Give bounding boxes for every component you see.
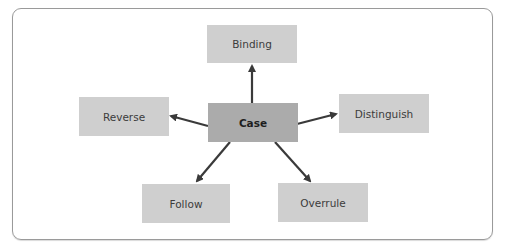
node-reverse: Reverse (79, 97, 169, 136)
arrow-to-follow (197, 142, 230, 181)
arrow-to-distinguish (297, 114, 336, 124)
node-follow: Follow (142, 184, 230, 223)
arrow-to-overrule (275, 142, 310, 181)
node-case: Case (208, 103, 298, 142)
node-label: Follow (170, 198, 203, 210)
node-binding: Binding (207, 25, 297, 63)
node-label: Overrule (300, 197, 345, 209)
node-label: Distinguish (355, 108, 414, 120)
node-overrule: Overrule (278, 183, 368, 222)
node-label: Case (239, 117, 267, 129)
node-label: Reverse (103, 111, 145, 123)
arrow-to-reverse (171, 116, 208, 126)
node-label: Binding (232, 38, 272, 50)
node-distinguish: Distinguish (339, 94, 429, 133)
